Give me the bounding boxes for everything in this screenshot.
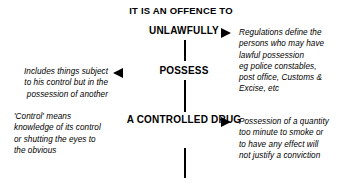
stage-controlled-drug-line1: A CONTROLLED <box>127 114 208 125</box>
connector-line-unlawfully-possess <box>184 40 186 61</box>
note-line: post office, Customs & <box>239 72 362 83</box>
connector-line-drug-tail <box>184 148 186 178</box>
offence-flow-diagram: IT IS AN OFFENCE TO UNLAWFULLY POSSESS A… <box>0 0 362 184</box>
note-line: Possession of a quantity <box>239 116 362 127</box>
connector-line-possess-drug <box>184 80 186 112</box>
note-line: to his control but in the <box>2 77 108 88</box>
note-line: eg police constables, <box>239 61 362 72</box>
note-line: Regulations define the <box>239 27 362 38</box>
note-line: too minute to smoke or <box>239 127 362 138</box>
note-line: knowledge of its control <box>14 122 114 133</box>
note-line: to have any effect will <box>239 139 362 150</box>
arrow-right-icon <box>221 117 231 127</box>
note-line: the obvious <box>14 145 114 156</box>
note-line: Excise, etc <box>239 83 362 94</box>
note-regulations: Regulations define the persons who may h… <box>239 27 362 95</box>
note-control-of-another: Includes things subject to his control b… <box>2 66 108 100</box>
arrow-left-icon <box>113 68 123 78</box>
note-line: Includes things subject <box>2 66 108 77</box>
note-line: possession of another <box>2 89 108 100</box>
note-line: 'Control' means <box>14 111 114 122</box>
note-control-meaning: 'Control' means knowledge of its control… <box>14 111 114 156</box>
arrow-right-icon <box>221 28 231 38</box>
note-line: persons who may have <box>239 38 362 49</box>
note-line: not justify a conviction <box>239 150 362 161</box>
note-line: lawful possession <box>239 50 362 61</box>
diagram-title: IT IS AN OFFENCE TO <box>0 5 362 16</box>
note-quantity: Possession of a quantity too minute to s… <box>239 116 362 161</box>
note-line: or shutting the eyes to <box>14 134 114 145</box>
